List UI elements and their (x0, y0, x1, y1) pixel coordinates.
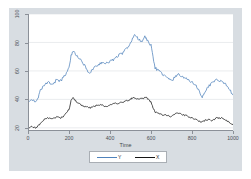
x-tick-label: 0 (18, 135, 38, 141)
y-tick-label: 100 (14, 7, 20, 21)
graph-region: 20406080100 02004006008001000 Time Y X (9, 8, 242, 171)
legend-line-y-icon (97, 157, 117, 158)
series-line-y (28, 35, 233, 102)
series-line-x (28, 97, 233, 128)
legend-entry-y[interactable]: Y (97, 154, 122, 160)
chart-screenshot: 20406080100 02004006008001000 Time Y X (0, 0, 251, 179)
y-tick-mark (25, 43, 28, 44)
y-tick-label: 20 (14, 121, 20, 135)
y-tick-mark (25, 99, 28, 100)
plot-region (28, 14, 233, 130)
x-tick-mark (233, 131, 234, 134)
x-tick-mark (192, 131, 193, 134)
y-tick-label: 60 (14, 64, 20, 78)
legend-entry-x[interactable]: X (135, 154, 160, 160)
y-tick-mark (25, 128, 28, 129)
legend-line-x-icon (135, 157, 155, 158)
x-tick-label: 800 (182, 135, 202, 141)
y-axis-line (28, 14, 29, 130)
x-tick-label: 1000 (223, 135, 243, 141)
x-tick-mark (28, 131, 29, 134)
legend-label-x: X (156, 154, 159, 160)
legend-label-y: Y (118, 154, 121, 160)
chart-legend[interactable]: Y X (89, 151, 167, 163)
x-tick-mark (69, 131, 70, 134)
x-tick-mark (110, 131, 111, 134)
y-tick-mark (25, 14, 28, 15)
plot-svg (28, 14, 233, 130)
x-tick-label: 400 (100, 135, 120, 141)
y-tick-mark (25, 71, 28, 72)
x-tick-label: 600 (141, 135, 161, 141)
x-axis-title: Time (9, 142, 242, 149)
x-tick-label: 200 (59, 135, 79, 141)
y-tick-label: 80 (14, 36, 20, 50)
x-axis-line (28, 130, 233, 131)
y-tick-label: 40 (14, 92, 20, 106)
x-tick-mark (151, 131, 152, 134)
